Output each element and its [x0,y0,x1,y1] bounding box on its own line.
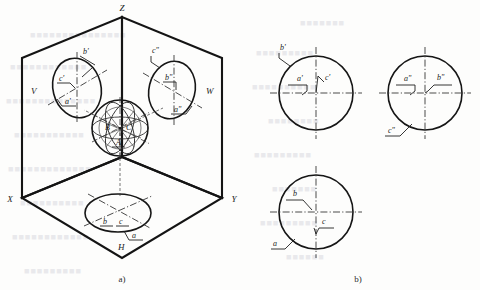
v-plane-projection: b' c' a' [46,47,107,124]
front-leader-b-prime [279,53,290,66]
point-label-b-prime: b' [83,47,89,56]
point-label-b: b [103,217,107,226]
side-point-label-a-double-prime: a" [404,74,412,83]
leader-c-double-prime [151,56,160,68]
side-point-label-c-double-prime: c" [388,126,396,135]
front-point-label-c-prime: c' [325,73,331,82]
top-point-label-a: a [273,239,277,248]
leader-c-prime-arrow [70,83,75,88]
sphere-assembly: B C A [84,97,163,198]
leader-a-arrow [124,231,129,240]
leader-b-prime [82,68,92,77]
side-point-label-b-double-prime: b" [437,73,445,82]
w-plane-projection: c" b" a" [143,46,202,126]
point-label-c: c [119,217,123,226]
front-point-label-a-prime: a' [297,74,303,83]
top-leader-b [286,200,312,210]
front-leader-c-prime [316,76,324,93]
w-centerline-inclined [143,73,202,108]
axis-label-y: Y [231,194,237,204]
axis-label-x: X [6,194,13,204]
orthographic-views: b' a' c' a" b" c [270,43,471,284]
front-point-label-b-prime: b' [280,43,286,52]
sphere-center-dot [119,127,121,129]
point-label-a-prime: a' [65,97,71,106]
front-view: b' a' c' [270,43,362,139]
top-point-label-b: b [293,189,297,198]
side-leader-b-double-prime [425,85,452,93]
point-label-c-double-prime: c" [152,46,160,55]
front-leader-a-prime [288,85,307,95]
point-label-a: a [132,231,136,240]
figure-root: ■■■■■■■■■■■■■■■■■■■■■■■■■■■■■■■■■■■■■■■■… [0,0,480,290]
side-view: a" b" c" [379,47,471,139]
caption-b: b) [354,274,362,284]
side-leader-a-double-prime [396,85,415,95]
point-label-a-double-prime: a" [174,105,182,114]
plane-label-w: W [206,86,215,96]
top-view-circle [279,175,353,249]
top-point-label-c: c [322,217,326,226]
point-label-c-prime: c' [59,74,65,83]
plane-label-h: H [117,242,125,252]
caption-a: a) [119,274,126,284]
axis-label-z: Z [119,3,125,13]
pictorial-projection-box: Z X Y V W H b' c' [6,3,237,284]
w-plane-outline [122,17,222,198]
h-plane-projection: b c a [84,194,152,240]
sphere-point-label-c: C [126,123,132,132]
top-view: b c a [270,166,362,258]
sphere-point-label-b: B [105,123,110,132]
v-plane-outline [22,17,122,198]
plane-label-v: V [31,86,38,96]
technical-drawing-canvas: .heavy{stroke:#141414;stroke-width:2.1;f… [0,0,480,290]
top-leader-c [314,228,334,234]
point-label-b-double-prime: b" [165,73,173,82]
sphere-point-label-a: A [115,138,121,147]
